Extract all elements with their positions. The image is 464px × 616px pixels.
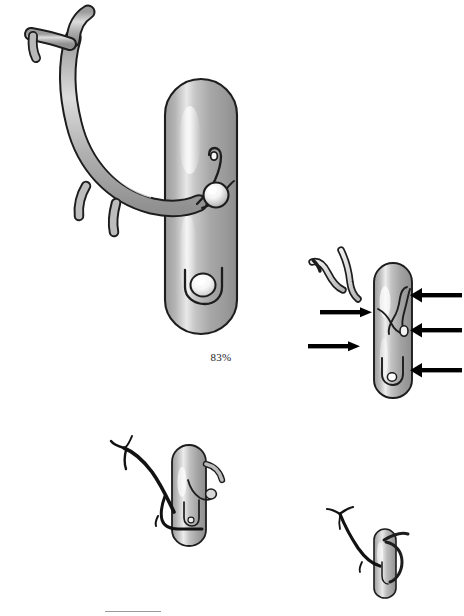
trunk-body-4 [172, 445, 206, 546]
ostium-upper-bulb [204, 183, 229, 208]
arrow-right-upper [410, 288, 462, 302]
crossing-branch-fork-lower [125, 450, 127, 469]
bottom-divider [105, 611, 161, 612]
vessel-diagram-83 [0, 0, 300, 350]
ostium-upper-specular [207, 186, 216, 194]
vessel-trunk-4 [172, 445, 206, 546]
arcing-branch-stub-02 [339, 516, 340, 529]
lumen-aperture-mid [400, 326, 408, 336]
trunk-highlight-4 [177, 467, 186, 497]
lumen-lower-aperture-4 [188, 517, 194, 523]
figure-panel-83: 83% [0, 0, 300, 350]
crossing-branch-stub [156, 516, 158, 526]
ostium-lower-specular [195, 276, 205, 285]
arrow-right-middle [410, 323, 462, 337]
detached-fragments-12 [312, 250, 358, 299]
crossing-branch-tip [125, 436, 132, 448]
illustration-canvas: 83% [0, 0, 464, 616]
arcing-branch-barb-02 [360, 562, 362, 572]
bifurcation-arm-83 [31, 12, 88, 58]
figure-panel-02: 0.2% [322, 500, 432, 592]
vessel-diagram-4 [110, 430, 240, 555]
side-branch-aperture-4 [206, 489, 217, 499]
vessel-diagram-12 [300, 240, 464, 420]
arrow-left-upper [320, 307, 372, 317]
arrow-right-lower [410, 363, 462, 377]
stub-branch-2-fill [113, 203, 116, 232]
arrow-left-lower [308, 341, 360, 351]
lumen-aperture-lower [387, 373, 396, 381]
vessel-diagram-02 [322, 500, 432, 592]
ostium-lower-aperture [191, 274, 216, 297]
crossing-branch-fork-upper [111, 441, 124, 448]
figure-panel-12: 12% [300, 240, 464, 420]
caption-83: 83% [161, 352, 281, 363]
arcing-branch-fork-left-02 [327, 509, 340, 514]
arcing-branch-02 [327, 507, 380, 572]
figure-panel-4: 4% [110, 430, 240, 555]
ostium-upper-small-aperture [211, 152, 218, 160]
arcing-branch-fork-right-02 [341, 507, 353, 513]
side-branch-fill-4 [206, 464, 222, 480]
crossing-branch-main [124, 448, 174, 512]
left-arm-stub-fill [33, 36, 36, 58]
trunk-highlight-upper [179, 106, 201, 174]
